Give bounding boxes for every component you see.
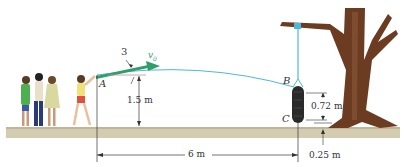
tire-height-label: 0.72 m [311,102,342,111]
velocity-subscript: 0 [153,55,157,62]
point-C-label: C [282,114,290,124]
height-A-label: 1.5 m [127,96,153,105]
point-A-label: A [99,79,106,89]
tire-offset-label: 0.25 m [309,151,340,160]
point-B-label: B [283,76,290,86]
slope-label: 3 [121,47,127,57]
velocity-label: v0 [148,51,157,62]
distance-label: 6 m [188,150,205,159]
velocity-arrow [96,61,160,79]
children-figures [21,73,95,126]
diagram-canvas [0,0,404,167]
tire [292,86,304,123]
